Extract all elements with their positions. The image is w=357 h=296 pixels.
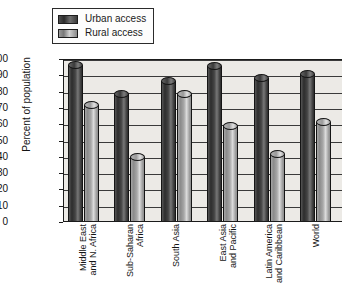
bar-urban[interactable] xyxy=(207,62,222,221)
bar-group xyxy=(111,60,158,221)
y-tick-label: 80 xyxy=(0,87,8,97)
bar-body xyxy=(316,122,331,221)
bar-cap xyxy=(177,90,192,98)
bar-rural[interactable] xyxy=(316,118,331,221)
x-category-label-line: South Asia xyxy=(171,224,181,292)
legend-item-urban-access[interactable]: Urban access xyxy=(58,12,146,26)
plot-area xyxy=(63,59,342,222)
bar-group xyxy=(297,60,344,221)
bar-body xyxy=(223,126,238,221)
bar-rural[interactable] xyxy=(84,101,99,221)
legend-label-urban: Urban access xyxy=(85,14,146,24)
bar-body xyxy=(207,66,222,221)
y-tick-label: 60 xyxy=(0,119,8,129)
x-category-label: Sub-SaharanAfrica xyxy=(125,224,145,292)
x-category-label-line: Sub-Saharan xyxy=(125,224,135,292)
y-tick-label: 30 xyxy=(0,168,8,178)
x-axis-category-labels: Middle Eastand N. AfricaSub-SaharanAfric… xyxy=(63,224,342,296)
y-tick-label: 10 xyxy=(0,201,8,211)
legend-item-rural-access[interactable]: Rural access xyxy=(58,26,146,40)
bar-body xyxy=(161,81,176,221)
bar-urban[interactable] xyxy=(114,90,129,221)
bar-urban[interactable] xyxy=(161,77,176,221)
bar-group xyxy=(157,60,204,221)
bar-group xyxy=(64,60,111,221)
x-category-label: Latin Americaand Caribbean xyxy=(264,224,284,292)
bar-body xyxy=(300,74,315,221)
x-category-label-line: Africa xyxy=(135,224,145,292)
bar-cap xyxy=(270,150,285,158)
bar-body xyxy=(254,78,269,221)
y-tick-label: 40 xyxy=(0,152,8,162)
bar-cap xyxy=(161,77,176,85)
y-tick-label: 70 xyxy=(0,103,8,113)
bar-body xyxy=(114,94,129,221)
y-tick-label: 0 xyxy=(0,217,8,227)
x-category-label-line: East Asia xyxy=(218,224,228,292)
bar-rural[interactable] xyxy=(130,153,145,221)
y-tick-label: 20 xyxy=(0,184,8,194)
bar-group xyxy=(204,60,251,221)
bar-cap xyxy=(254,74,269,82)
x-category-label-line: Middle East xyxy=(78,224,88,292)
x-category-label-line: and Pacific xyxy=(228,224,238,292)
y-tick-label: 90 xyxy=(0,70,8,80)
bar-cap xyxy=(316,118,331,126)
bar-cap xyxy=(114,90,129,98)
x-category-label-line: Latin America xyxy=(264,224,274,292)
bar-urban[interactable] xyxy=(68,61,83,221)
y-axis-title: Percent of population xyxy=(21,37,32,172)
urban-swatch-icon xyxy=(58,15,78,24)
x-category-label: World xyxy=(311,224,321,292)
bar-rural[interactable] xyxy=(177,90,192,221)
bar-body xyxy=(84,105,99,221)
x-category-label-line: and N. Africa xyxy=(88,224,98,292)
rural-swatch-icon xyxy=(58,29,78,38)
bar-body xyxy=(270,154,285,221)
x-category-label-line: World xyxy=(311,224,321,292)
x-category-label: East Asiaand Pacific xyxy=(218,224,238,292)
x-category-label: Middle Eastand N. Africa xyxy=(78,224,98,292)
x-category-label-line: and Caribbean xyxy=(274,224,284,292)
y-tick-mark xyxy=(59,222,63,223)
bar-cap xyxy=(68,61,83,69)
x-category-label: South Asia xyxy=(171,224,181,292)
bar-rural[interactable] xyxy=(270,150,285,221)
bar-urban[interactable] xyxy=(300,70,315,221)
legend-label-rural: Rural access xyxy=(85,28,143,38)
bar-series-container xyxy=(64,60,342,221)
bar-body xyxy=(68,65,83,221)
bar-rural[interactable] xyxy=(223,122,238,221)
y-tick-label: 50 xyxy=(0,136,8,146)
bar-body xyxy=(177,94,192,221)
bar-group xyxy=(250,60,297,221)
bar-body xyxy=(130,157,145,221)
chart-legend: Urban access Rural access xyxy=(52,8,154,44)
chart-root: Urban access Rural access Percent of pop… xyxy=(0,0,357,296)
bar-urban[interactable] xyxy=(254,74,269,221)
y-tick-label: 100 xyxy=(0,54,8,64)
